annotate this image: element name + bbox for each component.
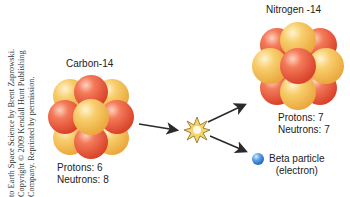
nitrogen-neutrons: Neutrons: 7 — [278, 124, 330, 136]
arrow-to-beta — [210, 136, 245, 151]
carbon-neutrons: Neutrons: 8 — [57, 174, 109, 186]
beta-line-2: (electron) — [269, 165, 325, 177]
electron-icon — [252, 153, 264, 165]
carbon-protons: Protons: 6 — [57, 162, 109, 174]
beta-label: Beta particle (electron) — [269, 153, 325, 177]
arrow-to-nitrogen — [208, 105, 244, 122]
carbon-title: Carbon-14 — [66, 58, 113, 69]
carbon-nucleus — [48, 75, 134, 159]
nitrogen-protons: Protons: 7 — [278, 112, 330, 124]
nitrogen-title: Nitrogen -14 — [266, 4, 321, 15]
nitrogen-counts: Protons: 7 Neutrons: 7 — [278, 112, 330, 136]
beta-line-1: Beta particle — [269, 153, 325, 165]
arrow-to-decay — [139, 124, 176, 130]
nitrogen-nucleus — [252, 22, 344, 110]
decay-burst-icon — [184, 117, 210, 143]
carbon-counts: Protons: 6 Neutrons: 8 — [57, 162, 109, 186]
